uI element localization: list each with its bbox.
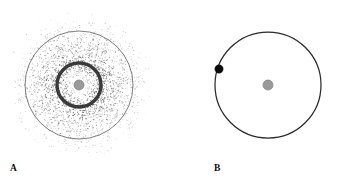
- panel-b: [215, 32, 321, 138]
- orbiting-particle-dot: [215, 65, 223, 73]
- central-gray-body: [74, 80, 84, 90]
- panel-label-a: A: [10, 164, 17, 174]
- panel-label-b: B: [214, 164, 221, 174]
- figure-root: A B: [0, 0, 343, 182]
- central-gray-body: [263, 80, 273, 90]
- figure-canvas: [0, 0, 343, 182]
- panel-a: [13, 13, 150, 155]
